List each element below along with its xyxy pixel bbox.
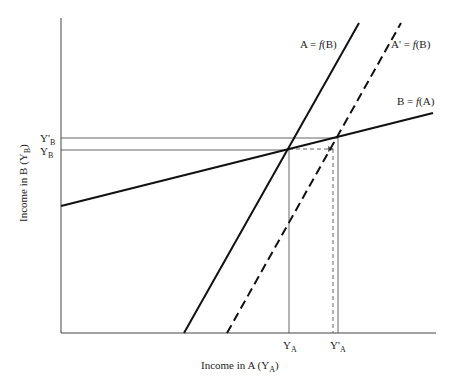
- label-b-fa: B = f(A): [397, 95, 435, 108]
- tick-y-prime-a: Y'A: [330, 339, 346, 354]
- tick-y-b: YB: [40, 145, 53, 160]
- label-a-fb: A = f(B): [300, 38, 337, 51]
- curve-b-fa: [61, 113, 433, 206]
- tick-y-a: YA: [283, 339, 297, 354]
- x-axis-title: Income in A (YA): [201, 359, 279, 374]
- y-axis-title: Income in B (YB): [17, 144, 32, 222]
- diagram-canvas: A = f(B) A' = f(B) B = f(A) Y'B YB YA Y'…: [0, 0, 450, 383]
- label-a-prime-fb: A' = f(B): [391, 38, 431, 51]
- curve-a-prime-fb: [227, 23, 401, 333]
